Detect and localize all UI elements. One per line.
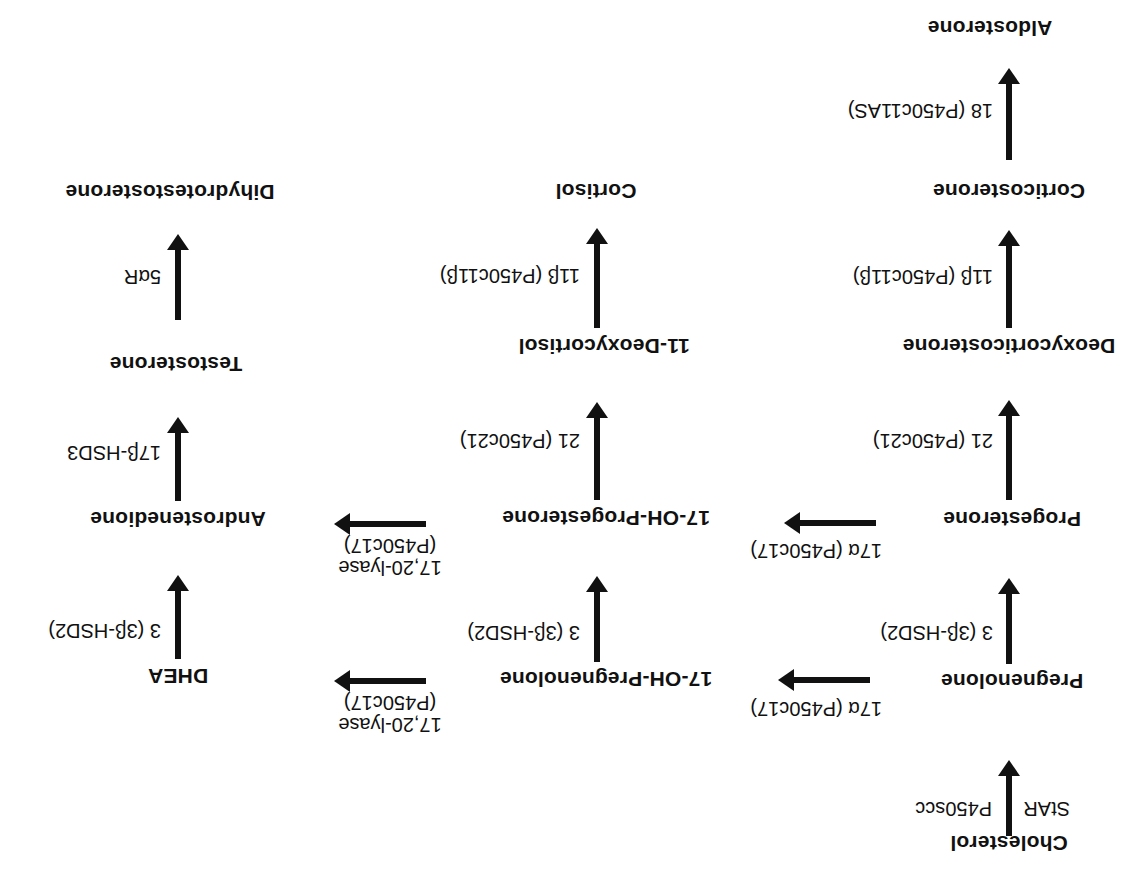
arrow-right-icon xyxy=(348,678,426,684)
arrow-down-icon xyxy=(175,431,181,501)
node-progesterone: Progesterone xyxy=(943,507,1081,531)
node-dihydrotestosterone: Dihydrotestosterone xyxy=(65,180,274,204)
enzyme-5a-reductase: 5αR xyxy=(124,266,161,288)
arrow-down-icon xyxy=(1006,414,1012,500)
enzyme-17-20-lyase: 17,20-lyase (P450c17) xyxy=(338,535,441,579)
node-androstenedione: Androstenedione xyxy=(90,507,266,531)
node-17oh-progesterone: 17-OH-Progesterone xyxy=(502,506,710,530)
arrow-right-icon xyxy=(348,521,426,527)
node-deoxycorticosterone: Deoxycorticosterone xyxy=(903,334,1116,358)
arrow-down-icon xyxy=(175,589,181,659)
enzyme-p450c21: 21 (P450c21) xyxy=(873,430,993,452)
enzyme-17a-p450c17: 17α (P450c17) xyxy=(750,540,882,562)
enzyme-line: 17,20-lyase xyxy=(338,714,441,736)
enzyme-p450scc: P450scc xyxy=(915,798,992,820)
arrow-down-icon xyxy=(1006,244,1012,328)
node-corticosterone: Corticosterone xyxy=(933,179,1085,203)
enzyme-3b-hsd2: 3 (3β-HSD2) xyxy=(880,622,993,644)
node-17oh-pregnenolone: 17-OH-Pregnenolone xyxy=(500,667,712,691)
enzyme-p450c11b: 11β (P450c11β) xyxy=(853,266,993,288)
enzyme-line: 17,20-lyase xyxy=(338,557,441,579)
enzyme-line: (P450c17) xyxy=(338,692,441,714)
node-aldosterone: Aldosterone xyxy=(928,16,1053,40)
enzyme-17b-hsd3: 17β-HSD3 xyxy=(67,442,161,464)
enzyme-line: (P450c17) xyxy=(338,535,441,557)
arrow-down-icon xyxy=(175,248,181,320)
enzyme-p450c11as: 18 (P450c11AS) xyxy=(848,100,993,122)
arrow-down-icon xyxy=(1006,82,1012,160)
arrow-down-icon xyxy=(594,416,600,500)
enzyme-p450c21: 21 (P450c21) xyxy=(460,430,580,452)
node-testosterone: Testosterone xyxy=(110,352,243,376)
steroidogenesis-diagram: Cholesterol StAR P450scc Pregnenolone 3 … xyxy=(0,0,1136,884)
node-cortisol: Cortisol xyxy=(556,179,637,203)
node-pregnenolone: Pregnenolone xyxy=(941,669,1083,693)
enzyme-3b-hsd2: 3 (3β-HSD2) xyxy=(467,622,580,644)
enzyme-star: StAR xyxy=(1023,798,1070,820)
arrow-right-icon xyxy=(798,520,876,526)
node-dhea: DHEA xyxy=(148,664,208,688)
arrow-down-icon xyxy=(594,590,600,662)
enzyme-3b-hsd2: 3 (3β-HSD2) xyxy=(48,620,161,642)
enzyme-p450c11b: 11β (P450c11β) xyxy=(440,265,580,287)
arrow-down-icon xyxy=(1006,774,1012,836)
node-11-deoxycortisol: 11-Deoxycortisol xyxy=(518,334,689,358)
enzyme-17-20-lyase: 17,20-lyase (P450c17) xyxy=(338,692,441,736)
arrow-down-icon xyxy=(1006,592,1012,664)
arrow-down-icon xyxy=(594,242,600,328)
enzyme-17a-p450c17: 17α (P450c17) xyxy=(750,698,882,720)
arrow-right-icon xyxy=(792,677,870,683)
